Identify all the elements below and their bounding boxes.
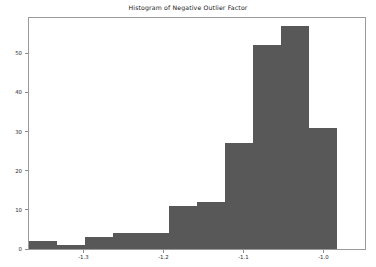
y-axis-tick: 50: [0, 49, 28, 57]
y-tick-mark: [25, 53, 28, 54]
histogram-bar: [253, 45, 281, 249]
y-tick-label: 50: [15, 49, 22, 57]
histogram-bar: [113, 233, 141, 249]
y-tick-mark: [25, 92, 28, 93]
y-tick-label: 10: [15, 206, 22, 214]
y-axis-tick: 0: [0, 245, 28, 253]
histogram-bar: [197, 202, 225, 249]
y-axis-tick: 30: [0, 128, 28, 136]
y-tick-mark: [25, 131, 28, 132]
histogram-bar: [169, 206, 197, 249]
histogram-bar: [141, 233, 169, 249]
y-axis-tick: 40: [0, 88, 28, 96]
y-tick-label: 0: [19, 245, 22, 253]
y-tick-label: 40: [15, 88, 22, 96]
histogram-bar: [85, 237, 113, 249]
x-tick-mark: [163, 250, 164, 253]
x-tick-mark: [243, 250, 244, 253]
chart-title: Histogram of Negative Outlier Factor: [0, 4, 376, 11]
y-tick-label: 20: [15, 167, 22, 175]
x-tick-label: -1.2: [143, 254, 183, 260]
histogram-bar: [309, 128, 337, 249]
histogram-bar: [57, 245, 85, 249]
x-tick-label: -1.3: [63, 254, 103, 260]
x-tick-mark: [83, 250, 84, 253]
y-axis-tick: 20: [0, 167, 28, 175]
histogram-bar: [29, 241, 57, 249]
histogram-bar: [225, 143, 253, 249]
histogram-bar: [281, 26, 309, 249]
y-tick-mark: [25, 249, 28, 250]
y-tick-mark: [25, 209, 28, 210]
histogram-figure: Histogram of Negative Outlier Factor 010…: [0, 0, 376, 267]
y-axis-tick: 10: [0, 206, 28, 214]
y-tick-mark: [25, 170, 28, 171]
x-tick-label: -1.1: [223, 254, 263, 260]
x-tick-mark: [323, 250, 324, 253]
x-tick-label: -1.0: [303, 254, 343, 260]
y-tick-label: 30: [15, 128, 22, 136]
plot-area: [29, 18, 365, 249]
